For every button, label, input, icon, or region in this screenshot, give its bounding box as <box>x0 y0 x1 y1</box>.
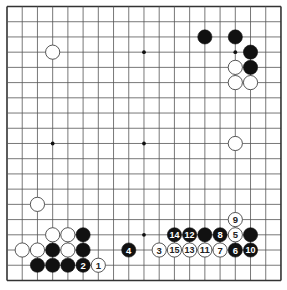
white-stone: 7 <box>213 243 227 257</box>
white-stone <box>15 243 29 257</box>
black-stone: 12 <box>183 228 197 242</box>
black-stone <box>30 258 44 272</box>
black-stone <box>228 30 242 44</box>
white-stone: 5 <box>228 228 242 242</box>
move-number: 7 <box>217 245 222 256</box>
white-stone <box>46 45 60 59</box>
move-number: 4 <box>126 245 132 256</box>
white-stone <box>61 228 75 242</box>
stones-layer: 123456789101112131415 <box>15 30 258 273</box>
move-number: 10 <box>246 245 256 255</box>
black-stone <box>61 258 75 272</box>
star-point <box>142 233 146 237</box>
black-stone <box>243 228 257 242</box>
black-stone: 8 <box>213 228 227 242</box>
move-number: 2 <box>80 260 85 271</box>
black-stone: 14 <box>167 228 181 242</box>
move-number: 8 <box>217 229 222 240</box>
star-point <box>142 142 146 146</box>
black-stone <box>76 228 90 242</box>
white-stone <box>61 243 75 257</box>
black-stone <box>46 258 60 272</box>
move-number: 12 <box>185 230 195 240</box>
white-stone: 9 <box>228 212 242 226</box>
black-stone: 10 <box>243 243 257 257</box>
star-point <box>142 50 146 54</box>
black-stone <box>198 228 212 242</box>
white-stone <box>228 136 242 150</box>
white-stone: 1 <box>91 258 105 272</box>
move-number: 6 <box>233 245 238 256</box>
black-stone: 4 <box>122 243 136 257</box>
go-board[interactable]: 123456789101112131415 <box>0 0 287 290</box>
black-stone <box>76 243 90 257</box>
white-stone: 13 <box>183 243 197 257</box>
white-stone: 11 <box>198 243 212 257</box>
white-stone <box>30 243 44 257</box>
white-stone: 15 <box>167 243 181 257</box>
move-number: 1 <box>96 260 102 271</box>
move-number: 14 <box>169 230 179 240</box>
move-number: 5 <box>233 229 239 240</box>
white-stone <box>243 76 257 90</box>
black-stone <box>243 60 257 74</box>
black-stone <box>46 243 60 257</box>
white-stone <box>30 197 44 211</box>
white-stone <box>46 228 60 242</box>
move-number: 15 <box>169 245 179 255</box>
black-stone: 6 <box>228 243 242 257</box>
black-stone: 2 <box>76 258 90 272</box>
move-number: 11 <box>200 245 210 255</box>
white-stone <box>228 76 242 90</box>
black-stone <box>198 30 212 44</box>
move-number: 3 <box>157 245 162 256</box>
star-point <box>233 50 237 54</box>
move-number: 13 <box>185 245 195 255</box>
move-number: 9 <box>233 214 238 225</box>
white-stone: 3 <box>152 243 166 257</box>
star-point <box>51 142 55 146</box>
black-stone <box>243 45 257 59</box>
white-stone <box>228 60 242 74</box>
